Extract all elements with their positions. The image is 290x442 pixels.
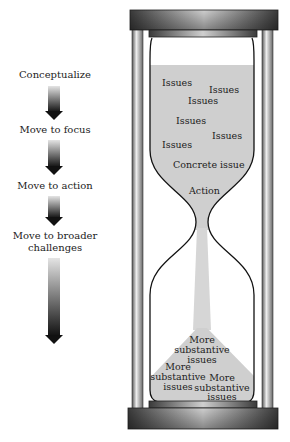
pile-label: issues bbox=[163, 381, 193, 392]
action-label: Action bbox=[188, 185, 220, 196]
issue-label: Issues bbox=[162, 77, 192, 88]
concrete-issue-label: Concrete issue bbox=[173, 159, 245, 170]
issue-label: Issues bbox=[212, 130, 242, 141]
pile-label: issues bbox=[187, 354, 217, 365]
right-pillar bbox=[262, 28, 273, 410]
top-plate bbox=[149, 30, 257, 37]
top-sand bbox=[140, 65, 270, 230]
left-pillar bbox=[132, 28, 143, 410]
bottom-plate bbox=[149, 401, 257, 408]
hourglass: Issues Issues Issues Issues Issues Issue… bbox=[0, 0, 290, 442]
pile-label: issues bbox=[207, 391, 237, 402]
issue-label: Issues bbox=[209, 84, 239, 95]
issue-label: Issues bbox=[176, 115, 206, 126]
issue-label: Issues bbox=[188, 95, 218, 106]
issue-label: Issues bbox=[162, 139, 192, 150]
